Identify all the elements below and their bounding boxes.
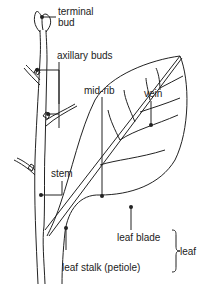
lower-branch	[46, 104, 77, 126]
terminal-bud-label-line1: terminal	[58, 6, 94, 17]
stem-label: stem	[51, 168, 73, 179]
terminal-bud-label-line2: bud	[58, 17, 75, 28]
leaf-brace	[172, 230, 180, 272]
stem-right-edge	[43, 30, 47, 284]
petiole	[45, 56, 182, 236]
vein-label: vein	[144, 88, 162, 99]
bottom-branch	[14, 158, 35, 175]
mid-rib-label: mid-rib	[84, 85, 115, 96]
leaf-stalk-label: leaf stalk (petiole)	[62, 262, 140, 273]
leaf-blade-label: leaf blade	[117, 232, 160, 243]
leaf-label: leaf	[180, 246, 196, 257]
terminal-bud	[34, 11, 50, 32]
axillary-buds-label: axillary buds	[57, 50, 113, 61]
plant-diagram	[0, 0, 219, 284]
